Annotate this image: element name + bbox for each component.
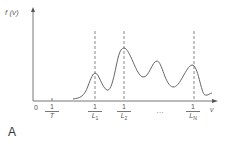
tick-label-1-over-L2: 1 L2: [117, 103, 131, 122]
panel-label: A: [8, 125, 16, 139]
tick-numerator: 1: [117, 103, 131, 112]
tick-label-1-over-L1: 1 L1: [88, 103, 102, 122]
tick-numerator: 1: [45, 103, 59, 112]
tick-label-1-over-LN: 1 LN: [186, 103, 200, 122]
y-axis-arrow-icon: [31, 7, 35, 12]
x-axis-arrow-icon: [212, 99, 218, 103]
ellipsis: ···: [156, 108, 164, 117]
origin-label: 0: [34, 104, 38, 111]
tick-denominator: L1: [88, 112, 102, 122]
x-axis-label: v: [210, 106, 214, 113]
tick-numerator: 1: [186, 103, 200, 112]
tick-den-sub: N: [193, 115, 197, 121]
tick-denominator: L2: [117, 112, 131, 122]
tick-label-1-over-T: 1 T: [45, 103, 59, 122]
plot-area: [0, 0, 226, 144]
tick-den-sub: 2: [125, 115, 128, 121]
tick-denominator: LN: [186, 112, 200, 122]
tick-den-sub: 1: [96, 115, 99, 121]
tick-denominator: T: [45, 112, 59, 122]
tick-numerator: 1: [88, 103, 102, 112]
y-axis-label: f (v): [5, 8, 19, 17]
spectrum-curve: [73, 48, 212, 99]
tick-den-text: T: [50, 112, 54, 119]
